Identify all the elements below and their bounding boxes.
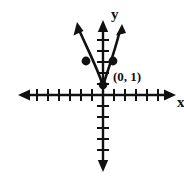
x-axis-label: x bbox=[177, 95, 184, 110]
y-axis-bottom-arrowhead bbox=[98, 160, 108, 172]
left-point-marker bbox=[82, 57, 91, 66]
right-point-marker bbox=[109, 57, 118, 66]
x-axis-right-arrowhead bbox=[164, 90, 176, 101]
y-axis-top-arrowhead bbox=[98, 20, 108, 32]
parabola-right-arrowhead bbox=[116, 24, 126, 36]
x-axis-left-arrowhead bbox=[18, 90, 30, 101]
vertex-point-marker bbox=[99, 81, 107, 89]
vertex-point-label: (0, 1) bbox=[113, 70, 141, 83]
coordinate-graph-figure: y x (0, 1) bbox=[0, 0, 184, 181]
graph-canvas bbox=[0, 0, 184, 181]
y-axis-label: y bbox=[111, 7, 119, 22]
